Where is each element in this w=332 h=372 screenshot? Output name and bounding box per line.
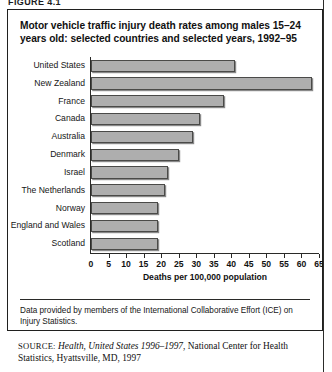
x-tick	[214, 254, 215, 258]
footnote-divider	[20, 299, 310, 300]
category-label: Israel	[64, 164, 85, 182]
x-tick	[144, 254, 145, 258]
x-tick-label: 0	[89, 259, 94, 269]
bar-row: France	[91, 93, 319, 111]
bar	[91, 238, 158, 250]
x-tick-label: 40	[227, 259, 237, 269]
source-label: SOURCE:	[18, 341, 56, 351]
bar	[91, 166, 168, 178]
x-tick-label: 30	[191, 259, 201, 269]
bar-row: New Zealand	[91, 75, 319, 93]
bar-row: Australia	[91, 128, 319, 146]
x-tick-label: 45	[244, 259, 254, 269]
bar	[91, 184, 165, 196]
x-tick	[231, 254, 232, 258]
bar-row: Denmark	[91, 146, 319, 164]
category-label: Denmark	[50, 146, 85, 164]
x-tick-label: 15	[139, 259, 149, 269]
bar	[91, 60, 235, 72]
x-axis-title: Deaths per 100,000 population	[91, 272, 319, 282]
x-tick	[301, 254, 302, 258]
category-label: New Zealand	[34, 75, 85, 93]
category-label: France	[58, 93, 85, 111]
bar-row: Israel	[91, 164, 319, 182]
x-tick-label: 50	[262, 259, 272, 269]
x-tick-label: 60	[297, 259, 307, 269]
plot-region: United StatesNew ZealandFranceCanadaAust…	[90, 57, 319, 254]
figure-footnote: Data provided by members of the Internat…	[20, 305, 312, 327]
x-tick	[161, 254, 162, 258]
figure-number: FIGURE 4.1	[8, 0, 61, 5]
bar-row: England and Wales	[91, 217, 319, 235]
source-publication: Health, United States 1996–1997	[58, 341, 183, 351]
x-tick	[126, 254, 127, 258]
page-right-rule	[323, 0, 324, 372]
x-tick	[196, 254, 197, 258]
x-tick	[109, 254, 110, 258]
x-axis-tick-labels: 05101520253035404550556065	[91, 259, 319, 271]
x-tick	[249, 254, 250, 258]
x-tick	[284, 254, 285, 258]
bar	[91, 202, 158, 214]
bar	[91, 95, 224, 107]
chart-area: United StatesNew ZealandFranceCanadaAust…	[8, 54, 322, 302]
category-label: United States	[33, 57, 85, 75]
x-tick-label: 55	[279, 259, 289, 269]
x-tick-label: 20	[156, 259, 166, 269]
x-tick	[266, 254, 267, 258]
x-tick	[179, 254, 180, 258]
x-tick-label: 10	[121, 259, 131, 269]
category-label: Scotland	[52, 235, 85, 253]
figure-frame: Motor vehicle traffic injury death rates…	[7, 9, 323, 331]
bar	[91, 113, 200, 125]
x-tick-label: 25	[174, 259, 184, 269]
bar	[91, 149, 179, 161]
x-tick-label: 35	[209, 259, 219, 269]
x-tick	[319, 254, 320, 258]
bar-row: The Netherlands	[91, 182, 319, 200]
category-label: Australia	[52, 128, 85, 146]
bar-rows: United StatesNew ZealandFranceCanadaAust…	[91, 57, 319, 253]
x-tick-label: 5	[106, 259, 111, 269]
figure-title: Motor vehicle traffic injury death rates…	[20, 19, 310, 45]
bar-row: Canada	[91, 110, 319, 128]
category-label: England and Wales	[11, 217, 85, 235]
category-label: Norway	[56, 200, 85, 218]
bar	[91, 77, 312, 89]
bar	[91, 131, 193, 143]
bar-row: Scotland	[91, 235, 319, 253]
bar	[91, 220, 158, 232]
bar-row: United States	[91, 57, 319, 75]
bar-row: Norway	[91, 200, 319, 218]
category-label: The Netherlands	[21, 182, 85, 200]
category-label: Canada	[55, 110, 85, 128]
figure-source: SOURCE: Health, United States 1996–1997,…	[18, 340, 306, 365]
